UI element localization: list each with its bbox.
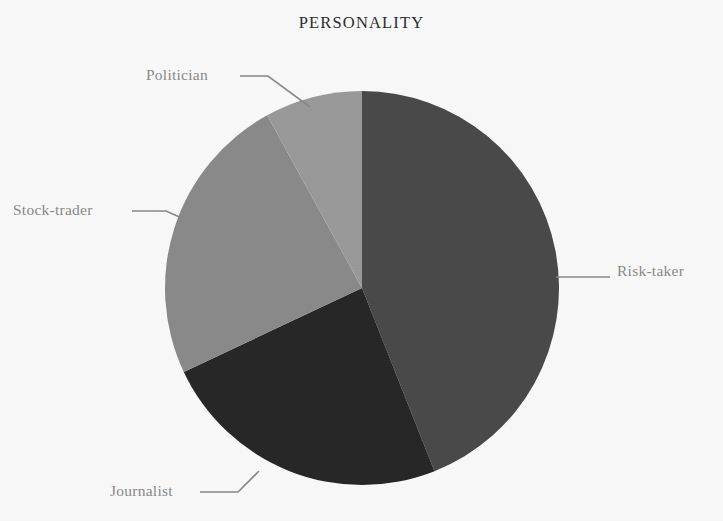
- pie-label-politician: Politician: [146, 66, 208, 84]
- pie-label-journalist: Journalist: [110, 482, 173, 500]
- pie-label-risk-taker: Risk-taker: [617, 262, 684, 280]
- chart-page: PERSONALITY Politician Stock-trader Jour…: [0, 0, 723, 521]
- leader-line-stock-trader: [132, 211, 184, 219]
- leader-line-journalist: [200, 471, 259, 492]
- pie-label-stock-trader: Stock-trader: [13, 201, 93, 219]
- pie-chart: [0, 0, 723, 521]
